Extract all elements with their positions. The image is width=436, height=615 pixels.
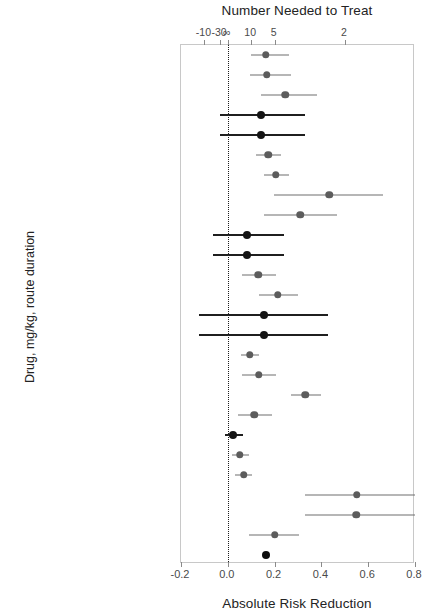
confidence-interval-line <box>261 94 316 95</box>
top-ticklabel: ∞ <box>223 26 231 38</box>
top-tickmark <box>275 40 276 45</box>
estimate-point-marker <box>352 511 360 519</box>
top-axis-title: Number Needed to Treat <box>180 3 414 18</box>
bottom-ticklabel: -0.2 <box>171 568 190 580</box>
top-tickmark <box>251 40 252 45</box>
estimate-point-marker <box>240 471 248 479</box>
estimate-point-marker <box>274 291 282 299</box>
bottom-ticklabel: 0.0 <box>219 568 234 580</box>
top-ticklabel: 2 <box>341 26 347 38</box>
median-point-marker <box>262 551 270 559</box>
estimate-point-marker <box>236 451 244 459</box>
estimate-point-marker <box>272 171 280 179</box>
top-ticklabel: -10 <box>196 26 211 38</box>
estimate-point-marker <box>264 151 272 159</box>
estimate-point-marker <box>246 351 254 359</box>
estimate-point-marker <box>243 251 251 259</box>
bottom-ticklabel: 0.2 <box>266 568 281 580</box>
estimate-point-marker <box>260 331 268 339</box>
estimate-point-marker <box>255 371 263 379</box>
bottom-ticklabel: 0.8 <box>406 568 421 580</box>
plot-area <box>180 44 414 563</box>
bottom-ticklabel: 0.6 <box>360 568 375 580</box>
confidence-interval-line <box>250 74 292 75</box>
y-axis-title: Drug, mg/kg, route duration <box>23 177 37 437</box>
bottom-axis-title: Absolute Risk Reduction <box>180 596 414 611</box>
bottom-tickmark <box>368 562 369 567</box>
bottom-tickmark <box>415 562 416 567</box>
top-tickmark <box>220 40 221 45</box>
bottom-tickmark <box>228 562 229 567</box>
top-tickmark <box>228 40 229 45</box>
estimate-point-marker <box>297 211 305 219</box>
top-tickmark <box>345 40 346 45</box>
estimate-point-marker <box>257 111 265 119</box>
estimate-point-marker <box>243 231 251 239</box>
bottom-tickmark <box>321 562 322 567</box>
confidence-interval-line <box>251 54 289 55</box>
top-ticklabel: 5 <box>271 26 277 38</box>
estimate-point-marker <box>353 491 361 499</box>
estimate-point-marker <box>326 191 334 199</box>
top-tickmark <box>204 40 205 45</box>
estimate-point-marker <box>271 531 279 539</box>
estimate-point-marker <box>257 131 265 139</box>
estimate-point-marker <box>263 71 271 79</box>
estimate-point-marker <box>281 91 289 99</box>
estimate-point-marker <box>250 411 258 419</box>
zero-reference-line <box>228 45 229 562</box>
estimate-point-marker <box>301 391 309 399</box>
estimate-point-marker <box>262 51 270 59</box>
estimate-point-marker <box>229 431 237 439</box>
bottom-tickmark <box>275 562 276 567</box>
forest-plot-figure: Number Needed to Treat Drug, mg/kg, rout… <box>0 0 436 615</box>
estimate-point-marker <box>254 271 262 279</box>
bottom-ticklabel: 0.4 <box>313 568 328 580</box>
top-ticklabel: 10 <box>244 26 256 38</box>
estimate-point-marker <box>260 311 268 319</box>
bottom-tickmark <box>181 562 182 567</box>
